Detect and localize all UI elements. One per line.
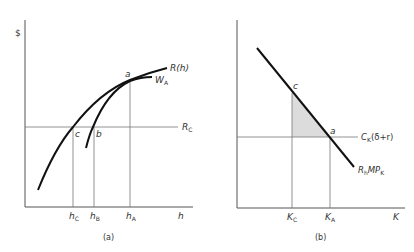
tick-ha: hA: [126, 211, 137, 222]
point-b-label: b: [96, 129, 102, 139]
caption-b: (b): [315, 233, 326, 242]
rc-label: RC: [182, 122, 192, 133]
point-c-label: c: [75, 129, 80, 139]
point-c-label-b: c: [293, 81, 298, 91]
point-a-label-b: a: [330, 126, 336, 136]
figure: $ R(h) WA RC a b c hC hB hA h (a): [0, 0, 414, 252]
tick-kc: KC: [287, 212, 297, 223]
r-of-h-curve: [38, 68, 167, 190]
wa-label: WA: [155, 75, 169, 86]
point-a-label: a: [125, 69, 131, 79]
tick-hc: hC: [69, 211, 79, 222]
y-axis-label-a: $: [15, 28, 21, 38]
ck-label: CK(δ+r): [361, 132, 393, 143]
panel-a: $ R(h) WA RC a b c hC hB hA h (a): [15, 20, 193, 242]
x-axis-label-a: h: [178, 211, 184, 221]
caption-a: (a): [103, 233, 114, 242]
panel-b: c a CK(δ+r) RhMPK KC KA K (b): [237, 20, 405, 242]
x-axis-label-b: K: [393, 212, 400, 222]
rh-mpk-label: RhMPK: [358, 165, 385, 176]
r-of-h-label: R(h): [170, 63, 189, 73]
tick-ka: KA: [325, 212, 336, 223]
tick-hb: hB: [90, 211, 100, 222]
rh-mpk-line: [257, 48, 354, 167]
